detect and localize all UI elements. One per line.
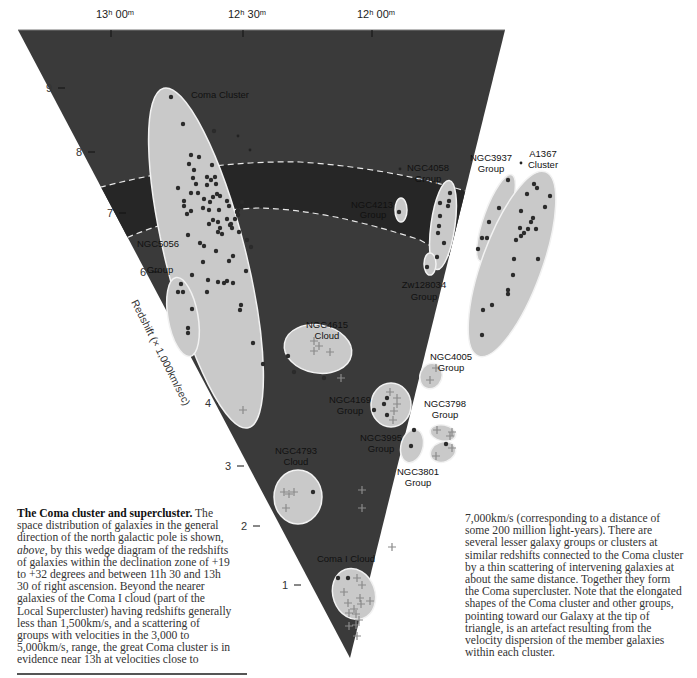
zw128034-region — [424, 253, 436, 275]
label-ngc3801: NGC3801 — [397, 466, 439, 477]
ra-label-12h30: 12ʰ 30ᵐ — [228, 8, 266, 20]
label-ngc4213-sub: Group — [360, 209, 386, 220]
label-coma-i-cloud: Coma I Cloud — [317, 553, 375, 564]
label-ngc4793: NGC4793 — [275, 445, 317, 456]
ngc3798-region — [429, 423, 457, 443]
ngc4213-region — [395, 198, 407, 222]
label-a1367-sub: Cluster — [528, 159, 558, 170]
svg-text:3: 3 — [225, 460, 231, 472]
svg-text:1: 1 — [282, 579, 288, 591]
label-ngc3798-sub: Group — [432, 409, 458, 420]
caption-left-italic: above — [17, 544, 45, 557]
caption-left-text-2: , by this wedge diagram of the redshifts… — [17, 544, 231, 667]
caption-left: The Coma cluster and supercluster. The s… — [17, 508, 232, 667]
label-ngc4793-sub: Cloud — [284, 456, 309, 467]
ngc3801-region — [427, 438, 458, 466]
label-ngc3801-sub: Group — [405, 477, 431, 488]
ra-label-12h00: 12ʰ 00ᵐ — [357, 8, 395, 20]
label-ngc3995-sub: Group — [368, 443, 394, 454]
label-ngc3937-sub: Group — [478, 163, 504, 174]
bottom-rule — [17, 673, 247, 675]
ngc4793-region — [274, 470, 322, 524]
label-ngc4169-sub: Group — [337, 405, 363, 416]
caption-right: 7,000km/s (corresponding to a distance o… — [465, 513, 685, 659]
label-ngc4169: NGC4169 — [329, 394, 371, 405]
ra-label-13h00: 13ʰ 00ᵐ — [96, 8, 134, 20]
label-ngc4615: NGC4615 — [306, 319, 348, 330]
svg-text:9: 9 — [46, 82, 52, 94]
svg-text:2: 2 — [241, 520, 247, 532]
label-ngc4005: NGC4005 — [430, 351, 472, 362]
label-coma-cluster: Coma Cluster — [191, 89, 249, 100]
label-ngc3937: NGC3937 — [470, 152, 512, 163]
label-zw128034-sub: Group — [411, 291, 437, 302]
svg-text:7: 7 — [107, 207, 113, 219]
label-ngc5056-sub: Group — [147, 264, 173, 275]
label-ngc3798: NGC3798 — [424, 398, 466, 409]
label-ngc3995: NGC3995 — [360, 432, 402, 443]
label-ngc5056: NGC5056 — [137, 238, 179, 249]
svg-text:4: 4 — [205, 397, 211, 409]
label-zw128034: Zw128034 — [402, 279, 446, 290]
label-ngc4615-sub: Cloud — [315, 330, 340, 341]
svg-text:6: 6 — [140, 266, 146, 278]
label-ngc4058-sub: Group — [415, 173, 441, 184]
label-a1367: A1367 — [529, 148, 556, 159]
caption-title: The Coma cluster and supercluster. — [17, 507, 192, 520]
label-ngc4058: NGC4058 — [407, 162, 449, 173]
label-ngc4005-sub: Group — [438, 362, 464, 373]
svg-text:8: 8 — [76, 146, 82, 158]
